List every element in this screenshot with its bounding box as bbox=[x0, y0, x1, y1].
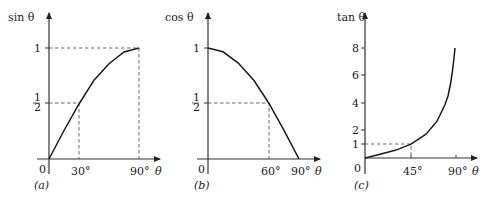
y-axis-label: cos θ bbox=[165, 11, 194, 24]
y-tick-1: 1 bbox=[193, 42, 200, 55]
caption-a: (a) bbox=[34, 179, 49, 192]
origin-label: 0 bbox=[39, 163, 46, 176]
y-tick-2: 2 bbox=[352, 124, 359, 137]
y-axis-label: tan θ bbox=[337, 11, 366, 24]
origin-label: 0 bbox=[354, 162, 361, 175]
y-tick-6: 6 bbox=[352, 69, 359, 82]
y-tick-8: 8 bbox=[352, 42, 359, 55]
guide-90-1 bbox=[49, 48, 139, 159]
guide-60-half bbox=[208, 103, 269, 159]
x-axis-label: θ bbox=[472, 165, 479, 178]
svg-text:2: 2 bbox=[193, 101, 200, 114]
x-tick-90: 90° bbox=[448, 165, 468, 178]
cosine-curve bbox=[208, 48, 299, 159]
y-axis-label: sin θ bbox=[8, 11, 35, 24]
x-tick-45: 45° bbox=[403, 165, 423, 178]
x-tick-90: 90° bbox=[130, 165, 150, 178]
panel-b-cosine: cos θ 1 1 2 0 60° 90° θ (b) bbox=[165, 11, 322, 192]
caption-b: (b) bbox=[194, 179, 210, 192]
tangent-curve bbox=[365, 48, 455, 158]
y-tick-1: 1 bbox=[34, 42, 41, 55]
x-tick-60: 60° bbox=[261, 165, 281, 178]
sine-curve bbox=[49, 48, 139, 159]
x-tick-30: 30° bbox=[71, 165, 91, 178]
x-tick-90: 90° bbox=[291, 165, 311, 178]
y-tick-half: 1 2 bbox=[33, 91, 41, 114]
y-tick-half: 1 2 bbox=[192, 91, 200, 114]
y-tick-1: 1 bbox=[352, 138, 359, 151]
x-axis-label: θ bbox=[155, 165, 162, 178]
y-tick-4: 4 bbox=[352, 97, 359, 110]
panel-c-tangent: tan θ 1 2 4 6 8 0 45° 90° θ (c) bbox=[337, 11, 479, 192]
origin-label: 0 bbox=[198, 163, 205, 176]
svg-text:2: 2 bbox=[34, 101, 41, 114]
panel-a-sine: sin θ 1 1 2 0 30° 90° θ (a) bbox=[8, 11, 162, 192]
x-axis-label: θ bbox=[315, 165, 322, 178]
caption-c: (c) bbox=[354, 179, 369, 192]
trig-graphs-figure: sin θ 1 1 2 0 30° 90° θ (a) cos θ 1 1 2 … bbox=[0, 0, 498, 206]
